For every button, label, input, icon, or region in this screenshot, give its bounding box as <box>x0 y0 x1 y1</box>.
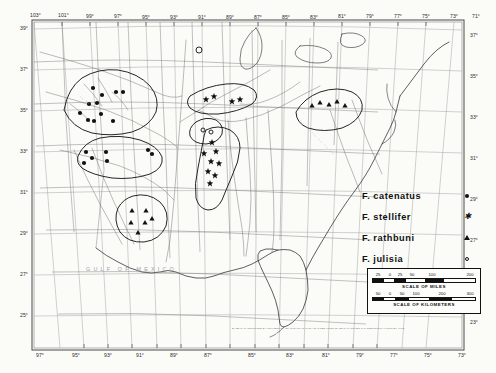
lon-label-bottom: 89° <box>170 352 178 358</box>
lon-label-top: 83° <box>310 14 318 20</box>
legend-label: F. stellifer <box>362 212 457 222</box>
legend-entry-f-catenatus: F. catenatus <box>362 185 484 206</box>
scale-tick: 100 <box>429 272 436 277</box>
lat-label-left: 25° <box>20 312 28 318</box>
lat-label-right: 35° <box>470 73 478 79</box>
lon-label-top: 77° <box>394 13 402 19</box>
lat-label-right: 37° <box>470 32 478 38</box>
legend-label: F. rathbuni <box>362 233 457 243</box>
scale-tick: 25 <box>376 272 381 277</box>
scale-tick: 0 <box>389 272 391 277</box>
scale-kilometers: 50 0 50 100 200 300 SCALE OF KILOMETERS <box>372 291 476 308</box>
legend-entry-f-julisia: F. julisia <box>362 248 484 269</box>
scale-km-ticks: 50 0 50 100 200 300 <box>372 291 476 297</box>
scale-miles: 25 0 25 50 100 200 SCALE OF MILES <box>372 272 476 289</box>
lat-label-left: 27° <box>20 271 28 277</box>
lon-label-bottom: 81° <box>322 352 330 358</box>
lon-label-top: 91° <box>198 14 206 20</box>
scale-tick: 50 <box>410 272 415 277</box>
lat-label-right: 23° <box>470 319 478 325</box>
lat-label-left: 29° <box>20 230 28 236</box>
lon-label-top: 73° <box>450 13 458 19</box>
lon-label-top: 75° <box>422 13 430 19</box>
lon-label-top: 81° <box>338 13 346 19</box>
lon-label-bottom: 97° <box>36 352 44 358</box>
scale-tick: 300 <box>467 291 474 296</box>
scale-km-bar <box>372 297 476 302</box>
legend-label: F. catenatus <box>362 191 457 201</box>
lon-label-bottom: 79° <box>356 352 364 358</box>
triangle-icon <box>457 234 477 242</box>
scale-tick: 0 <box>389 291 391 296</box>
distribution-map-figure: 103° 101° 99° 97° 95° 93° 91° 89° 87° 85… <box>0 0 496 373</box>
lon-label-top: 95° <box>142 14 150 20</box>
gulf-of-mexico-label: GULF OF MEXICO <box>86 266 177 272</box>
scale-tick: 200 <box>439 291 446 296</box>
scale-tick: 50 <box>376 291 381 296</box>
lon-label-bottom: 91° <box>136 352 144 358</box>
legend-entry-f-rathbuni: F. rathbuni <box>362 227 484 248</box>
lat-label-left: 37° <box>20 66 28 72</box>
legend-entry-f-stellifer: F. stellifer ✱ <box>362 206 484 227</box>
lon-label-bottom: 85° <box>248 352 256 358</box>
lon-label-top: 99° <box>86 13 94 19</box>
lon-label-bottom: 87° <box>204 352 212 358</box>
lon-label-top: 93° <box>170 14 178 20</box>
lon-label-bottom: 73° <box>458 352 466 358</box>
lon-label-bottom: 93° <box>104 352 112 358</box>
lat-label-left: 31° <box>20 189 28 195</box>
lon-label-top: 89° <box>226 14 234 20</box>
scale-bar-box: 25 0 25 50 100 200 SCALE OF MILES 50 0 <box>367 268 481 314</box>
scale-tick: 200 <box>467 272 474 277</box>
scale-tick: 100 <box>413 291 420 296</box>
lon-label-bottom: 75° <box>424 352 432 358</box>
species-legend: F. catenatus F. stellifer ✱ F. rathbuni … <box>362 185 484 269</box>
lat-label-left: 35° <box>20 107 28 113</box>
lon-label-top: 101° <box>58 12 69 18</box>
lon-label-bottom: 83° <box>286 352 294 358</box>
scale-tick: 50 <box>400 291 405 296</box>
legend-label: F. julisia <box>362 254 457 264</box>
lat-label-right: 33° <box>470 114 478 120</box>
filled-circle-icon <box>457 192 477 200</box>
scale-miles-caption: SCALE OF MILES <box>372 284 476 289</box>
star-icon: ✱ <box>457 213 477 221</box>
lon-label-bottom: 95° <box>72 352 80 358</box>
lon-label-top: 103° <box>30 12 41 18</box>
lat-label-left: 39° <box>20 25 28 31</box>
lat-label-right: 31° <box>470 155 478 161</box>
scale-miles-ticks: 25 0 25 50 100 200 <box>372 272 476 278</box>
map-credit-line: BASE MAP COMPILED BY UNIVERSITY OF MICHI… <box>232 327 405 330</box>
lon-label-top: 87° <box>254 14 262 20</box>
lon-label-top: 97° <box>114 13 122 19</box>
lon-label-bottom: 77° <box>390 352 398 358</box>
lon-label-top: 85° <box>282 14 290 20</box>
lon-label-top: 71° <box>472 13 480 19</box>
lon-label-top: 79° <box>366 13 374 19</box>
scale-tick: 25 <box>398 272 403 277</box>
lat-label-left: 33° <box>20 148 28 154</box>
scale-km-caption: SCALE OF KILOMETERS <box>372 302 476 307</box>
scale-miles-bar <box>372 278 476 283</box>
open-circle-icon <box>457 255 477 263</box>
